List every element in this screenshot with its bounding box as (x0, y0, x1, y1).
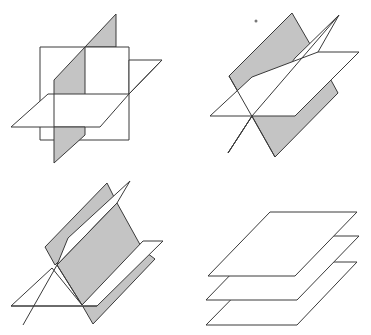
panel-common-line-planes (210, 13, 359, 157)
panel-parallel-planes (206, 212, 359, 325)
shaded-plane-lower (54, 127, 85, 163)
plane-edge (228, 116, 252, 153)
panel-prism-planes (11, 181, 163, 325)
speck (255, 20, 258, 23)
shaded-plane-top (85, 14, 116, 47)
diagram-canvas: three mutually perpendicular planes inte… (0, 0, 371, 335)
panel-perpendicular-planes (11, 14, 162, 163)
planes-figure (0, 0, 371, 335)
